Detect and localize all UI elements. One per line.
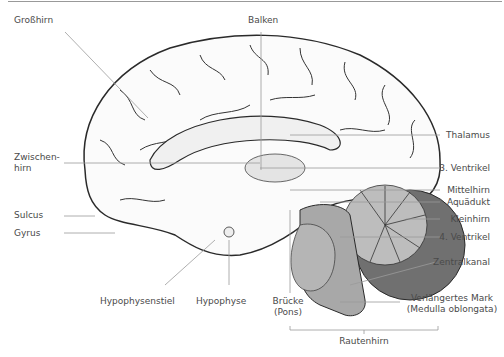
label-verlaengertes-mark-line1: Verlängertes Mark (400, 293, 504, 304)
label-4-ventrikel: 4. Ventrikel (439, 232, 490, 243)
label-3-ventrikel: 3. Ventrikel (439, 163, 490, 174)
label-verlaengertes-mark-line2: (Medulla oblongata) (400, 304, 504, 315)
label-zentralkanal: Zentralkanal (433, 257, 490, 268)
rautenhirn-bracket (290, 326, 438, 334)
label-rautenhirn: Rautenhirn (324, 336, 404, 347)
label-balken: Balken (248, 15, 278, 26)
label-sulcus: Sulcus (14, 210, 43, 221)
label-hypophysenstiel: Hypophysenstiel (100, 296, 175, 307)
label-bruecke-line1: Brücke (266, 296, 310, 307)
pituitary-shape (224, 227, 234, 237)
label-hypophyse: Hypophyse (196, 296, 246, 307)
label-bruecke-line2: (Pons) (266, 307, 310, 318)
label-gyrus: Gyrus (14, 228, 40, 239)
label-kleinhirn: Kleinhirn (450, 214, 490, 225)
label-mittelhirn: Mittelhirn (447, 185, 490, 196)
label-zwischenhirn-line2: hirn (14, 163, 31, 174)
label-thalamus: Thalamus (446, 130, 490, 141)
label-aquaedukt: Aquädukt (447, 197, 490, 208)
label-zwischenhirn-line1: Zwischen- (14, 152, 60, 163)
label-grosshirn: Großhirn (14, 15, 53, 26)
